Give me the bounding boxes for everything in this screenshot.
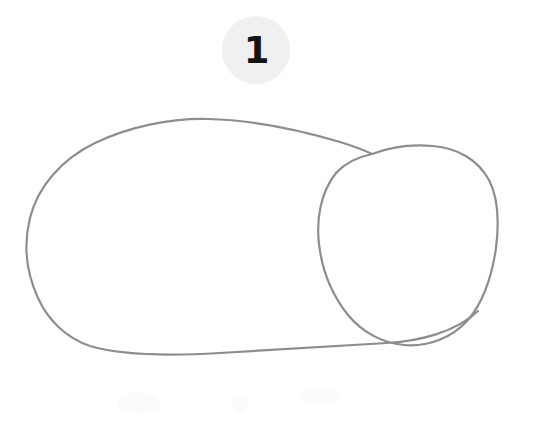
head-outline-path [318, 145, 498, 345]
drawing-canvas: 1 [0, 0, 534, 424]
step-badge: 1 [222, 16, 290, 84]
body-top-edge-path [208, 119, 372, 154]
step-badge-number: 1 [244, 32, 269, 69]
body-outline-path [27, 119, 478, 355]
